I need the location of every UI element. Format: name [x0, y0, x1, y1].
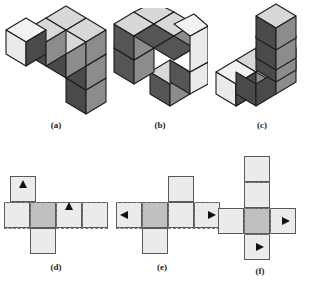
fold-line [142, 202, 143, 228]
caption-e: (e) [142, 262, 182, 272]
arrow-up-icon [19, 180, 27, 188]
net-cell [244, 156, 270, 182]
cube-net-f [218, 156, 310, 260]
fold-line [270, 208, 271, 234]
fold-line [116, 228, 142, 229]
fold-line [194, 202, 220, 203]
arrow-right-icon [208, 211, 216, 219]
caption-b: (b) [140, 120, 180, 130]
cube-assembly-c [214, 2, 310, 120]
net-cell [142, 202, 168, 228]
caption-c: (c) [242, 120, 282, 130]
cube-net-e [110, 176, 216, 256]
fold-line [168, 228, 220, 229]
fold-line [4, 228, 30, 229]
net-cell [244, 208, 270, 234]
cube-assembly-a [4, 2, 108, 120]
net-cell [30, 228, 56, 254]
fold-line [56, 202, 57, 228]
caption-f: (f) [240, 266, 280, 276]
net-cell [194, 202, 220, 228]
net-cell [168, 202, 194, 228]
caption-a: (a) [36, 120, 76, 130]
caption-d: (d) [36, 262, 76, 272]
net-cell [218, 208, 244, 234]
net-cell [30, 202, 56, 228]
panel-e: (e) [110, 176, 216, 280]
fold-line [244, 182, 270, 183]
arrow-left-icon [120, 211, 128, 219]
arrow-right-icon [256, 243, 264, 251]
fold-line [194, 202, 195, 228]
cube-assembly-b [112, 8, 208, 116]
fold-line [244, 234, 270, 235]
net-cell [168, 176, 194, 202]
figure-root: (a) [0, 0, 314, 292]
net-cell [4, 202, 30, 228]
panel-b: (b) [112, 8, 208, 120]
fold-line [168, 202, 169, 228]
panel-c: (c) [214, 2, 310, 120]
net-cell [244, 182, 270, 208]
net-cell [142, 228, 168, 254]
cube-net-d [4, 176, 110, 256]
fold-line [244, 208, 245, 234]
panel-d: (d) [4, 176, 110, 280]
arrow-up-icon [65, 202, 73, 210]
net-cell [82, 202, 108, 228]
panel-a: (a) [4, 2, 108, 120]
fold-line [30, 202, 31, 228]
fold-line [82, 202, 83, 228]
arrow-right-icon [282, 217, 290, 225]
fold-line [244, 208, 270, 209]
panel-f: (f) [218, 156, 310, 280]
fold-line [56, 228, 108, 229]
